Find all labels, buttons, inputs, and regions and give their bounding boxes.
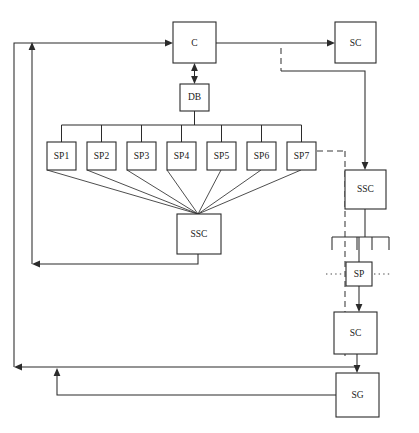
node-sc-bottom-label: SC	[350, 328, 362, 338]
node-sp1[interactable]: SP1	[47, 142, 76, 170]
node-sp-right-label: SP	[354, 269, 365, 279]
arrowhead-sg-feedback-up	[54, 368, 61, 376]
arrowhead-into-sc-top	[327, 40, 335, 47]
node-sg[interactable]: SG	[336, 373, 379, 417]
edge-sp7-to-ssc	[198, 170, 301, 214]
arrowhead-c-db-up	[191, 63, 198, 71]
arrowhead-c-db-down	[191, 76, 198, 84]
node-sp5[interactable]: SP5	[207, 142, 236, 170]
node-sp1-label: SP1	[54, 151, 70, 161]
arrowhead-into-sc-bottom	[356, 304, 363, 312]
node-sp7-label: SP7	[294, 151, 310, 161]
node-sp-right[interactable]: SP	[346, 262, 372, 286]
node-ssc-right[interactable]: SSC	[345, 170, 386, 209]
node-sc-top[interactable]: SC	[335, 22, 376, 63]
edge-sp5-to-ssc	[198, 170, 221, 214]
node-sg-label: SG	[351, 390, 363, 400]
node-sc-top-label: SC	[350, 38, 362, 48]
node-db-label: DB	[188, 92, 201, 102]
edge-sg-feedback	[57, 374, 336, 395]
node-sp5-label: SP5	[214, 151, 230, 161]
node-sp7[interactable]: SP7	[287, 142, 316, 170]
node-ssc-mid[interactable]: SSC	[177, 214, 221, 254]
node-ssc-right-label: SSC	[357, 184, 374, 194]
architecture-diagram: C SC DB SP1 SP2 SP3	[0, 0, 419, 433]
node-layer: C SC DB SP1 SP2 SP3	[47, 22, 386, 417]
arrowhead-outer-loop-left	[14, 364, 22, 371]
diagram-canvas: C SC DB SP1 SP2 SP3	[0, 0, 419, 433]
node-sp4-label: SP4	[174, 151, 190, 161]
node-sp6[interactable]: SP6	[247, 142, 276, 170]
node-sp6-label: SP6	[254, 151, 270, 161]
node-sp2-label: SP2	[94, 151, 110, 161]
node-sp3[interactable]: SP3	[127, 142, 156, 170]
edge-outer-left-loop	[14, 43, 169, 367]
node-sp3-label: SP3	[134, 151, 150, 161]
node-ssc-mid-label: SSC	[191, 229, 208, 239]
edge-sp3-to-ssc	[127, 170, 198, 214]
node-sp2[interactable]: SP2	[87, 142, 116, 170]
edge-sp1-to-ssc	[47, 170, 198, 214]
edge-sp2-to-ssc	[87, 170, 198, 214]
node-sp4[interactable]: SP4	[167, 142, 196, 170]
arrowhead-ssc-mid-feedback	[32, 261, 40, 268]
node-sc-bottom[interactable]: SC	[334, 312, 377, 354]
edge-ssc-mid-feedback	[36, 254, 198, 264]
node-c-label: C	[191, 38, 197, 48]
edge-sp6-to-ssc	[198, 170, 261, 214]
arrowhead-into-c	[165, 40, 173, 47]
arrowhead-into-sg	[354, 365, 361, 373]
node-c[interactable]: C	[173, 22, 216, 63]
node-db[interactable]: DB	[180, 84, 209, 111]
arrowhead-into-ssc-right	[362, 162, 369, 170]
